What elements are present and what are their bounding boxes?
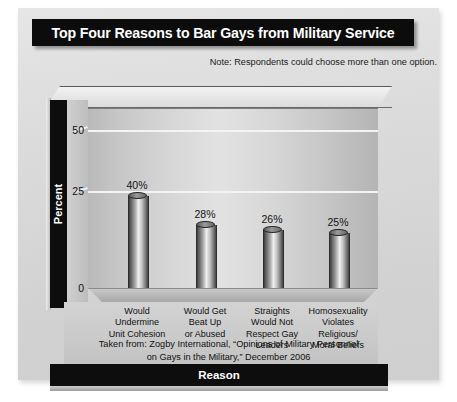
bar-value-label-4: 25% — [315, 216, 361, 228]
bar-top-ellipse — [196, 221, 215, 228]
x-axis-title-band: Reason — [50, 364, 388, 386]
chart-title-banner: Top Four Reasons to Bar Gays from Milita… — [32, 19, 414, 46]
source-line-2: on Gays in the Military,” December 2006 — [18, 351, 439, 364]
bar-would-get-beat-up-or-abused[interactable] — [196, 225, 217, 294]
cat3-line1: Straights — [234, 306, 310, 317]
chart-note: Note: Respondents could choose more than… — [0, 57, 437, 67]
bar-value-label-3: 26% — [249, 213, 295, 225]
bar-would-undermine-unit-cohesion[interactable] — [128, 196, 149, 294]
cat3-line2: Would Not — [234, 317, 310, 328]
bar-top-ellipse — [128, 192, 147, 199]
y-tick-label-0: 0 — [44, 282, 84, 294]
bar-homosexuality-violates-religious-moral-beliefs[interactable] — [329, 233, 350, 294]
y-tick-label-25: 25 — [44, 185, 84, 197]
bar-value-label-2: 28% — [182, 208, 228, 220]
page-title: Top Four Reasons to Bar Gays from Milita… — [51, 25, 394, 41]
bar-top-ellipse — [329, 229, 348, 236]
source-caption: Taken from: Zogby International, “Opinio… — [18, 338, 439, 363]
gridline-50 — [88, 130, 378, 132]
x-category-label-1: Would Undermine Unit Cohesion — [99, 306, 175, 340]
chart-3d-top-face — [46, 86, 392, 109]
source-line-1: Taken from: Zogby International, “Opinio… — [18, 338, 439, 351]
chart-page: Top Four Reasons to Bar Gays from Milita… — [0, 0, 457, 402]
cat4-line2: Violates — [300, 317, 376, 328]
x-category-label-2: Would Get Beat Up or Abused — [167, 306, 243, 340]
chart-base-bevel — [50, 386, 388, 391]
bar-value-label-1: 40% — [114, 179, 160, 191]
cat4-line1: Homosexuality — [300, 306, 376, 317]
cat2-line1: Would Get — [167, 306, 243, 317]
cat2-line2: Beat Up — [167, 317, 243, 328]
cat1-line1: Would — [99, 306, 175, 317]
cat1-line2: Undermine — [99, 317, 175, 328]
bar-top-ellipse — [263, 226, 282, 233]
plot-floor — [88, 288, 378, 303]
y-tick-label-50: 50 — [44, 124, 84, 136]
x-axis-title: Reason — [198, 369, 240, 381]
chart-plot-area: Percent 50 25 0 40% 28% 26% — [46, 86, 392, 331]
bar-straights-would-not-respect-gay-leaders[interactable] — [263, 230, 284, 294]
